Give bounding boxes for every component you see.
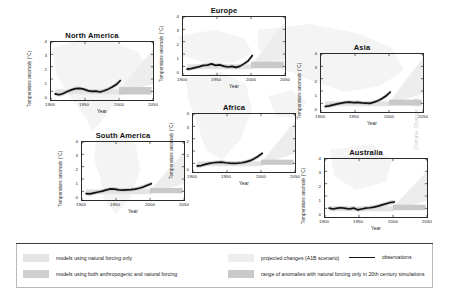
y-tick: 1 bbox=[312, 199, 321, 203]
x-tick: 2000 bbox=[241, 78, 261, 82]
observations-line bbox=[349, 257, 375, 258]
x-tick: 1950 bbox=[206, 78, 226, 82]
y-tick: 3 bbox=[180, 126, 189, 130]
x-axis-label: Year bbox=[324, 226, 428, 231]
x-tick: 1900 bbox=[172, 78, 192, 82]
y-tick: 4 bbox=[170, 15, 179, 19]
y-tick: 0 bbox=[312, 213, 321, 217]
legend-label: range of anomalies with natural forcing … bbox=[261, 271, 425, 277]
y-tick: 0 bbox=[170, 71, 179, 75]
x-tick: 2000 bbox=[383, 220, 403, 224]
y-tick: 3 bbox=[38, 54, 47, 58]
x-axis-label: Year bbox=[320, 121, 424, 126]
x-axis-label: Year bbox=[182, 84, 286, 89]
x-tick: 1950 bbox=[216, 175, 236, 179]
x-tick: 1900 bbox=[40, 103, 60, 107]
legend-item-range-anomalies: range of anomalies with natural forcing … bbox=[228, 270, 425, 278]
y-tick: 1 bbox=[180, 154, 189, 158]
x-tick: 1900 bbox=[314, 220, 334, 224]
y-tick: 3 bbox=[69, 154, 78, 158]
range-anomalies-swatch bbox=[228, 270, 254, 278]
y-tick: 4 bbox=[69, 140, 78, 144]
x-tick: 2050 bbox=[275, 78, 295, 82]
y-tick: 2 bbox=[170, 43, 179, 47]
x-tick: 1950 bbox=[344, 115, 364, 119]
y-axis-label: Temperature anomaly (°C) bbox=[301, 168, 306, 224]
legend-item-projected-changes: projected changes (A1B scenario) bbox=[228, 254, 339, 262]
y-tick: 1 bbox=[69, 182, 78, 186]
legend-top-rule bbox=[16, 243, 433, 244]
legend-item-natural-forcing: models using natural forcing only bbox=[23, 254, 132, 262]
y-axis-label: Temperature anomaly (°C) bbox=[159, 26, 164, 82]
x-tick: 1950 bbox=[348, 220, 368, 224]
y-axis-label: Temperature anomaly (°C) bbox=[58, 151, 63, 207]
y-tick: 4 bbox=[180, 112, 189, 116]
panel-africa: Africa Temperature anomaly (°C) 4 3 2 1 … bbox=[168, 103, 300, 187]
panel-australia: Australia Temperature anomaly (°C) 4 3 2… bbox=[300, 148, 432, 232]
legend-label: projected changes (A1B scenario) bbox=[261, 255, 339, 261]
y-tick: 1 bbox=[308, 94, 317, 98]
plot-area bbox=[192, 113, 296, 173]
panel-asia: Asia Temperature anomaly (°C) 4 3 2 1 0 … bbox=[296, 43, 428, 127]
legend-item-observations: observations bbox=[349, 254, 411, 260]
panel-europe: Europe Temperature anomaly (°C) 4 3 2 1 … bbox=[158, 6, 290, 90]
x-tick: 1900 bbox=[182, 175, 202, 179]
y-tick: 2 bbox=[69, 168, 78, 172]
x-tick: 1900 bbox=[310, 115, 330, 119]
legend-label: models using both anthropogenic and natu… bbox=[56, 271, 177, 277]
y-tick: 3 bbox=[170, 29, 179, 33]
y-tick: 2 bbox=[180, 140, 189, 144]
x-tick: 2050 bbox=[417, 220, 437, 224]
panel-north-america: North America Temperature anomaly (°C) 4… bbox=[26, 31, 158, 115]
y-tick: 4 bbox=[38, 40, 47, 44]
projected-changes-swatch bbox=[228, 254, 254, 262]
x-tick: 2050 bbox=[413, 115, 433, 119]
x-tick: 2000 bbox=[109, 103, 129, 107]
x-tick: 2000 bbox=[140, 203, 160, 207]
x-axis-label: Year bbox=[50, 109, 154, 114]
x-tick: 2050 bbox=[174, 203, 194, 207]
y-tick: 0 bbox=[308, 108, 317, 112]
legend-label: models using natural forcing only bbox=[56, 255, 132, 261]
x-tick: 1900 bbox=[71, 203, 91, 207]
y-tick: 2 bbox=[308, 80, 317, 84]
y-tick: 1 bbox=[170, 57, 179, 61]
y-tick: 4 bbox=[312, 157, 321, 161]
x-tick: 2000 bbox=[251, 175, 271, 179]
y-tick: 3 bbox=[312, 171, 321, 175]
x-axis-label: Year bbox=[192, 181, 296, 186]
legend-label: observations bbox=[382, 254, 411, 260]
y-tick: 4 bbox=[308, 52, 317, 56]
plot-area bbox=[50, 41, 154, 101]
y-tick: 0 bbox=[38, 96, 47, 100]
y-axis-label: Temperature anomaly (°C) bbox=[27, 51, 32, 107]
x-axis-label: Year bbox=[81, 209, 185, 214]
x-tick: 1950 bbox=[105, 203, 125, 207]
plot-area bbox=[182, 16, 286, 76]
plot-area bbox=[324, 158, 428, 218]
x-tick: 2050 bbox=[143, 103, 163, 107]
plot-area bbox=[320, 53, 424, 113]
anthropogenic-natural-forcing-swatch bbox=[23, 270, 49, 278]
y-tick: 1 bbox=[38, 82, 47, 86]
y-axis-label: Temperature anomaly (°C) bbox=[169, 123, 174, 179]
legend-item-anthropogenic-natural-forcing: models using both anthropogenic and natu… bbox=[23, 270, 177, 278]
y-tick: 2 bbox=[38, 68, 47, 72]
legend-panel bbox=[16, 243, 433, 288]
y-tick: 0 bbox=[180, 168, 189, 172]
x-tick: 2000 bbox=[379, 115, 399, 119]
y-tick: 2 bbox=[312, 185, 321, 189]
x-tick: 1950 bbox=[74, 103, 94, 107]
climate-figure: Climate Change 2007 North America Temper… bbox=[0, 0, 449, 296]
natural-forcing-swatch bbox=[23, 254, 49, 262]
y-tick: 0 bbox=[69, 196, 78, 200]
y-tick: 3 bbox=[308, 66, 317, 70]
